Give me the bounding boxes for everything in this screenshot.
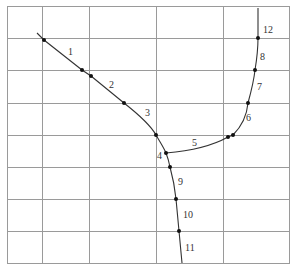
segment-label-10: 10 (183, 209, 193, 220)
node-point-10 (253, 68, 257, 72)
node-point-3 (89, 74, 93, 78)
segment-label-2: 2 (109, 79, 114, 90)
segment-label-4: 4 (157, 150, 162, 161)
segment-label-1: 1 (68, 46, 73, 57)
node-point-2 (80, 68, 84, 72)
node-point-5 (154, 133, 158, 137)
node-point-12 (168, 165, 172, 169)
segment-label-3: 3 (145, 107, 150, 118)
lower-descending-branch (166, 153, 182, 263)
node-point-7 (226, 135, 230, 139)
node-point-13 (174, 197, 178, 201)
right-rising-branch (166, 8, 258, 153)
segment-label-7: 7 (257, 81, 262, 92)
node-point-11 (256, 36, 260, 40)
node-point-8 (231, 133, 235, 137)
segment-label-9: 9 (178, 176, 183, 187)
points (42, 36, 260, 233)
node-point-1 (42, 38, 46, 42)
segment-label-6: 6 (246, 112, 251, 123)
segment-label-5: 5 (192, 137, 197, 148)
node-point-4 (122, 101, 126, 105)
node-point-6 (164, 151, 168, 155)
segment-label-11: 11 (185, 242, 195, 253)
segment-label-8: 8 (260, 51, 265, 62)
segment-label-12: 12 (263, 24, 273, 35)
node-point-9 (246, 101, 250, 105)
node-point-14 (177, 229, 181, 233)
segment-diagram: 123456789101112 (0, 0, 297, 269)
segment-labels: 123456789101112 (68, 24, 273, 253)
